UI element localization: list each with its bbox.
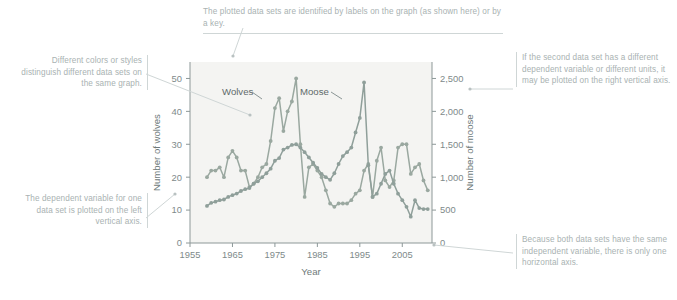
data-point	[273, 106, 277, 110]
right-tick-label: 1,000	[440, 172, 463, 183]
data-point	[256, 179, 260, 183]
data-point	[315, 166, 319, 170]
data-point	[231, 149, 235, 153]
data-point	[307, 165, 311, 169]
data-point	[214, 200, 218, 204]
data-point	[222, 198, 226, 202]
leader-left-top-dot	[248, 113, 251, 116]
data-point	[243, 169, 247, 173]
data-point	[218, 198, 222, 202]
leader-top	[233, 28, 243, 56]
data-point	[209, 169, 213, 173]
right-tick-label: 2,500	[440, 73, 463, 84]
leader-right-bottom	[434, 245, 513, 253]
data-point	[354, 192, 358, 196]
data-point	[388, 185, 392, 189]
data-point	[417, 162, 421, 166]
bottom-tick-label: 1985	[307, 249, 328, 260]
data-point	[388, 169, 392, 173]
data-point	[265, 171, 269, 175]
data-point	[375, 159, 379, 163]
bottom-tick-label: 1955	[180, 249, 201, 260]
bottom-tick-label: 1965	[222, 249, 243, 260]
y2-axis-title: Number of moose	[464, 114, 475, 190]
data-point	[409, 215, 413, 219]
data-point	[341, 202, 345, 206]
data-point	[426, 188, 430, 192]
data-point	[328, 178, 332, 182]
data-point	[226, 156, 230, 160]
y-axis-title: Number of wolves	[151, 114, 162, 191]
data-point	[320, 172, 324, 176]
data-point	[252, 182, 256, 186]
data-point	[298, 146, 302, 150]
bottom-tick-label: 1995	[349, 249, 370, 260]
data-point	[277, 96, 281, 100]
data-point	[405, 142, 409, 146]
left-tick-label: 0	[177, 237, 182, 248]
data-point	[400, 142, 404, 146]
data-point	[290, 100, 294, 104]
data-point	[349, 146, 353, 150]
data-point	[349, 198, 353, 202]
data-point	[231, 193, 235, 197]
data-point	[260, 175, 264, 179]
right-tick-label: 2,000	[440, 106, 463, 117]
data-point	[362, 169, 366, 173]
data-point	[362, 81, 366, 85]
data-point	[332, 205, 336, 209]
bottom-tick-label: 2005	[392, 249, 413, 260]
data-point	[396, 192, 400, 196]
data-point	[239, 189, 243, 193]
leader-right-bottom-dot	[432, 243, 435, 246]
data-point	[324, 175, 328, 179]
data-point	[345, 150, 349, 154]
data-point	[218, 165, 222, 169]
data-point	[239, 169, 243, 173]
data-point	[422, 207, 426, 211]
bottom-tick-label: 1975	[264, 249, 285, 260]
data-point	[205, 175, 209, 179]
leader-right-top-dot	[468, 87, 471, 90]
data-point	[358, 116, 362, 120]
data-point	[337, 162, 341, 166]
right-tick-label: 500	[440, 204, 456, 215]
right-tick-label: 0	[440, 237, 445, 248]
data-point	[226, 195, 230, 199]
data-point	[260, 165, 264, 169]
data-point	[294, 77, 298, 81]
data-point	[235, 156, 239, 160]
data-point	[332, 171, 336, 175]
data-point	[422, 179, 426, 183]
data-point	[383, 179, 387, 183]
data-point	[413, 165, 417, 169]
series-label-wolves: Wolves	[222, 86, 253, 97]
data-point	[383, 172, 387, 176]
left-tick-label: 50	[172, 73, 182, 84]
data-point	[277, 156, 281, 160]
left-tick-label: 40	[172, 106, 182, 117]
data-point	[290, 143, 294, 147]
data-point	[328, 202, 332, 206]
data-point	[396, 146, 400, 150]
data-point	[379, 182, 383, 186]
data-point	[209, 201, 213, 205]
data-point	[307, 156, 311, 160]
data-point	[324, 188, 328, 192]
data-point	[294, 142, 298, 146]
left-tick-label: 10	[172, 204, 182, 215]
data-point	[409, 172, 413, 176]
data-point	[354, 131, 358, 135]
data-point	[214, 169, 218, 173]
data-point	[205, 204, 209, 208]
data-point	[417, 206, 421, 210]
leader-left-bottom-dot	[173, 192, 176, 195]
data-point	[303, 195, 307, 199]
data-point	[375, 192, 379, 196]
data-point	[248, 186, 252, 190]
data-point	[341, 154, 345, 158]
data-point	[426, 207, 430, 211]
data-point	[358, 188, 362, 192]
left-tick-label: 30	[172, 139, 182, 150]
figure-root: The plotted data sets are identified by …	[0, 0, 677, 300]
